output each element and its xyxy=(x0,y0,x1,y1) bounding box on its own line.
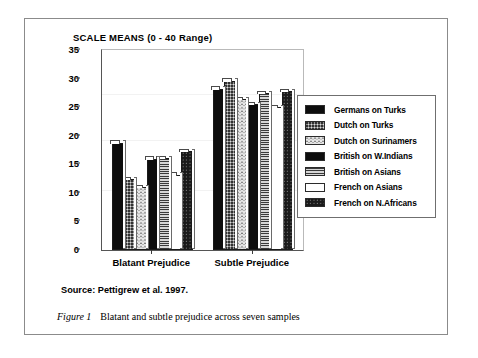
bar-side-face xyxy=(235,78,238,249)
bar-germans-on-turks-subtle-prejudice xyxy=(213,89,225,250)
bar-side-face xyxy=(192,149,195,249)
y-axis-tick-label: 5 xyxy=(39,215,79,226)
y-axis-tick-label: 0 xyxy=(39,244,79,255)
y-axis-tick-label: 30 xyxy=(39,72,79,83)
figure-caption-text: Blatant and subtle prejudice across seve… xyxy=(100,311,299,322)
legend-item-label: French on N.Africans xyxy=(334,198,417,208)
figure-caption: Figure 1Blatant and subtle prejudice acr… xyxy=(57,311,300,322)
plot-wrapper: 05101520253035 Blatant PrejudiceSubtle P… xyxy=(53,49,311,281)
x-axis-group-label: Blatant Prejudice xyxy=(112,257,190,268)
legend-swatch-icon xyxy=(305,183,325,192)
legend-item-label: Dutch on Surinamers xyxy=(334,136,417,146)
figure-number: Figure 1 xyxy=(57,311,91,322)
legend-item: British on Asians xyxy=(305,164,430,180)
chart-legend: Germans on TurksDutch on TurksDutch on S… xyxy=(297,95,436,218)
legend-swatch-icon xyxy=(305,121,325,130)
bar-top-face xyxy=(145,156,155,160)
source-note: Source: Pettigrew et al. 1997. xyxy=(61,285,188,295)
bar-side-face xyxy=(157,156,160,249)
legend-swatch-icon xyxy=(305,136,325,145)
y-axis-tick-mark xyxy=(75,191,80,192)
bar-side-face xyxy=(258,102,261,249)
bar-side-face xyxy=(223,86,226,249)
y-axis-tick-label: 15 xyxy=(39,158,79,169)
y-axis-tick-label: 20 xyxy=(39,129,79,140)
legend-swatch-icon xyxy=(305,167,325,176)
bar-top-face xyxy=(222,78,232,82)
legend-swatch-icon xyxy=(305,198,325,207)
bar-side-face xyxy=(180,172,183,249)
bar-germans-on-turks-blatant-prejudice xyxy=(112,143,124,250)
bar-side-face xyxy=(269,91,272,249)
plot-ghost-line xyxy=(102,94,303,95)
bar-top-face xyxy=(280,89,290,93)
y-axis-tick-label: 25 xyxy=(39,101,79,112)
x-axis-group-label: Subtle Prejudice xyxy=(215,257,289,268)
y-axis-tick-mark xyxy=(75,249,80,250)
legend-swatch-icon xyxy=(305,105,325,114)
legend-item: French on N.Africans xyxy=(305,195,430,211)
legend-item: Dutch on Surinamers xyxy=(305,133,430,149)
bar-side-face xyxy=(134,177,137,249)
legend-item: Germans on Turks xyxy=(305,102,430,118)
bar-side-face xyxy=(292,89,295,249)
y-axis-tick-mark xyxy=(75,49,80,50)
bar-side-face xyxy=(146,185,149,249)
y-axis-tick-label: 10 xyxy=(39,186,79,197)
y-axis-tick-mark xyxy=(75,77,80,78)
bar-top-face xyxy=(257,91,267,95)
legend-item-label: British on W.Indians xyxy=(334,151,413,161)
legend-item-label: Germans on Turks xyxy=(334,105,406,115)
bar-top-face xyxy=(211,86,221,90)
y-axis-tick-mark xyxy=(75,134,80,135)
figure-frame: SCALE MEANS (0 - 40 Range) 0510152025303… xyxy=(24,18,448,335)
chart-title: SCALE MEANS (0 - 40 Range) xyxy=(73,32,212,43)
legend-item: British on W.Indians xyxy=(305,149,430,165)
bar-top-face xyxy=(179,149,189,153)
bar-side-face xyxy=(169,156,172,250)
legend-item-label: French on Asians xyxy=(334,182,402,192)
plot-area xyxy=(101,49,304,251)
legend-item-label: British on Asians xyxy=(334,167,401,177)
y-axis-tick-label: 35 xyxy=(39,44,79,55)
bar-side-face xyxy=(281,105,284,249)
bar-side-face xyxy=(246,97,249,249)
legend-swatch-icon xyxy=(305,152,325,161)
legend-item: French on Asians xyxy=(305,180,430,196)
y-axis-tick-mark xyxy=(75,106,80,107)
legend-item: Dutch on Turks xyxy=(305,118,430,134)
y-axis-tick-mark xyxy=(75,220,80,221)
y-axis-tick-mark xyxy=(75,163,80,164)
bar-top-face xyxy=(110,140,120,144)
legend-item-label: Dutch on Turks xyxy=(334,120,393,130)
bar-side-face xyxy=(123,140,126,249)
